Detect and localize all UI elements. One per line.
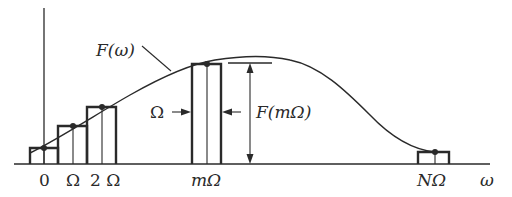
height-label: F(mΩ) bbox=[255, 102, 311, 122]
sample-point-n-omega bbox=[432, 149, 438, 155]
sample-point-m-omega bbox=[204, 61, 210, 67]
sample-point-0 bbox=[41, 145, 47, 151]
sample-bars bbox=[30, 64, 449, 164]
sample-point-2omega bbox=[99, 104, 105, 110]
spectrum-diagram: F(ω) Ω F(mΩ) 0 Ω 2 Ω mΩ NΩ ω bbox=[0, 0, 512, 197]
height-arrowhead-up-icon bbox=[247, 63, 254, 73]
width-label: Ω bbox=[150, 102, 164, 122]
width-arrowhead-right-icon bbox=[181, 109, 191, 116]
tick-label-n-omega: NΩ bbox=[416, 170, 446, 190]
tick-label-2omega: 2 Ω bbox=[90, 170, 120, 190]
tick-label-0: 0 bbox=[39, 170, 50, 190]
width-arrowhead-left-icon bbox=[222, 109, 232, 116]
tick-label-omega: Ω bbox=[66, 170, 80, 190]
sample-point-omega bbox=[70, 123, 76, 129]
axis-label-omega: ω bbox=[480, 170, 494, 190]
curve-label: F(ω) bbox=[95, 40, 135, 60]
height-arrowhead-down-icon bbox=[247, 154, 254, 164]
curve-label-leader bbox=[142, 46, 171, 71]
spectrum-curve bbox=[30, 57, 435, 153]
tick-label-m-omega: mΩ bbox=[191, 170, 221, 190]
